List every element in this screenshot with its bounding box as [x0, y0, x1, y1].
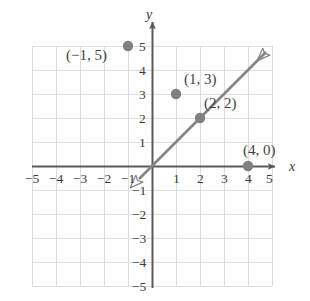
y-tick-label-3: 3 — [139, 88, 146, 102]
x-tick-label-1: 1 — [173, 172, 180, 186]
y-axis-label: y — [146, 8, 152, 22]
y-tick-label-5: 5 — [139, 40, 146, 54]
x-tick-label-5: 5 — [266, 172, 273, 186]
data-point — [171, 89, 181, 99]
coordinate-graph-figure: x y −5 −4 −3 −2 −1 1 2 3 4 5 5 4 3 2 1 −… — [0, 0, 310, 301]
y-tick-label-neg5: −5 — [132, 280, 146, 294]
y-tick-label-neg3: −3 — [132, 232, 146, 246]
x-tick-label-neg2: −2 — [97, 172, 111, 186]
x-tick-label-neg3: −3 — [73, 172, 87, 186]
y-tick-label-4: 4 — [139, 64, 146, 78]
point-annotation-1-3: (1, 3) — [184, 72, 217, 87]
x-tick-label-2: 2 — [197, 172, 204, 186]
x-tick-label-neg5: −5 — [25, 172, 39, 186]
point-annotation-2-2: (2, 2) — [204, 96, 237, 111]
x-tick-label-neg4: −4 — [49, 172, 63, 186]
point-annotation-neg1-5: (−1, 5) — [66, 48, 107, 63]
y-tick-label-neg2: −2 — [132, 208, 146, 222]
y-tick-label-neg4: −4 — [132, 256, 146, 270]
x-axis-label: x — [289, 160, 295, 174]
data-point — [243, 161, 253, 171]
y-tick-label-2: 2 — [139, 112, 146, 126]
x-tick-label-3: 3 — [221, 172, 228, 186]
data-point — [123, 41, 133, 51]
point-annotation-4-0: (4, 0) — [243, 143, 276, 158]
y-tick-label-1: 1 — [139, 136, 146, 150]
x-tick-label-4: 4 — [245, 172, 252, 186]
data-point — [195, 113, 205, 123]
y-tick-label-neg1: −1 — [132, 184, 146, 198]
